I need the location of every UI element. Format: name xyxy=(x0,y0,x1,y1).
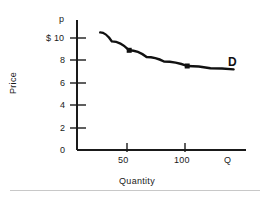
x-tick-label-100: 100 xyxy=(174,155,190,165)
demand-curve-chart: $ 10 8 6 4 2 0 50 100 p Q Price Quantity… xyxy=(0,0,267,197)
y-axis-letter: p xyxy=(59,14,64,24)
y-tick-label-4: 4 xyxy=(60,100,65,110)
y-tick-label-6: 6 xyxy=(60,78,65,88)
y-tick-label-2: 2 xyxy=(60,123,65,133)
x-tick-label-50: 50 xyxy=(118,155,128,165)
x-axis-letter: Q xyxy=(224,155,231,165)
y-tick-label-0: 0 xyxy=(60,145,65,155)
bottom-divider xyxy=(10,190,260,191)
y-tick-label-8: 8 xyxy=(60,55,65,65)
data-point-marker-2 xyxy=(185,64,190,69)
data-point-marker-1 xyxy=(127,48,132,53)
y-tick-label-10: $ 10 xyxy=(46,33,64,43)
demand-curve-path xyxy=(100,32,233,69)
demand-curve-label: D xyxy=(228,55,237,69)
chart-plot-area xyxy=(0,0,267,197)
y-axis-title: Price xyxy=(8,61,18,105)
x-axis-title: Quantity xyxy=(107,176,167,186)
